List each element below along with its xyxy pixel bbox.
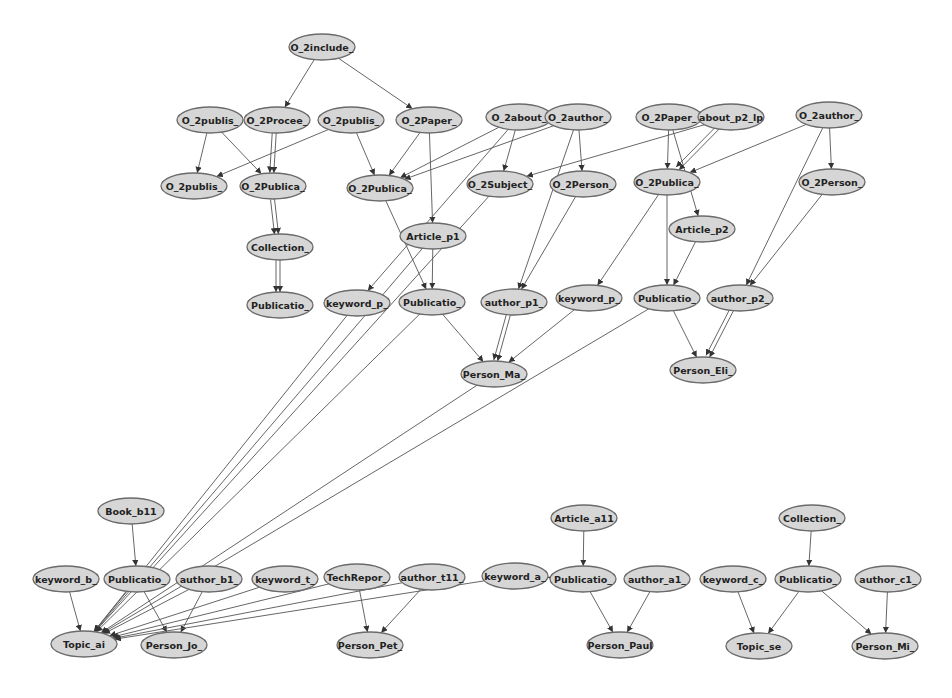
- node-label: keyword_p_: [558, 293, 620, 304]
- edge-arrow: [217, 129, 329, 176]
- edge-arrow: [627, 592, 650, 633]
- node-label: TechRepor_: [327, 572, 388, 583]
- graph-node[interactable]: keyword_c_: [700, 566, 766, 592]
- edge-arrow: [509, 310, 575, 363]
- graph-node[interactable]: keyword_p_: [556, 285, 622, 311]
- edge-arrow: [822, 591, 872, 634]
- node-label: keyword_c_: [703, 574, 764, 585]
- node-label: Collection_: [251, 242, 309, 253]
- graph-node[interactable]: O_2author_: [796, 102, 862, 128]
- graph-node[interactable]: Person_Jo_: [141, 632, 207, 658]
- graph-node[interactable]: Publicatio_: [634, 285, 700, 311]
- edge-arrow: [443, 314, 484, 361]
- node-layer: O_2include_O_2publis_O_2Procee_O_2publis…: [33, 34, 921, 659]
- graph-node[interactable]: author_a1_: [624, 566, 690, 592]
- node-label: O_2author_: [548, 112, 608, 123]
- graph-node[interactable]: O_2Person_: [550, 171, 616, 197]
- graph-node[interactable]: Publicatio_: [104, 566, 170, 592]
- node-label: O_2about_: [491, 112, 546, 123]
- edge-arrow: [339, 58, 413, 108]
- edge-arrow: [579, 130, 582, 171]
- node-label: keyword_b_: [35, 574, 97, 585]
- graph-node[interactable]: TechRepor_: [324, 564, 390, 590]
- node-label: Publicatio_: [403, 297, 461, 308]
- graph-node[interactable]: Publicatio_: [550, 566, 616, 592]
- graph-node[interactable]: Person_Eli_: [670, 357, 736, 383]
- node-label: Article_a11: [554, 513, 614, 524]
- node-label: author_c1_: [859, 574, 917, 585]
- graph-node[interactable]: author_b1_: [176, 566, 242, 592]
- edge-arrow: [809, 531, 811, 566]
- graph-node[interactable]: Article_p1: [400, 223, 466, 249]
- node-label: author_t11_: [401, 572, 464, 583]
- graph-node[interactable]: O_2Publica_: [240, 173, 306, 199]
- graph-node[interactable]: O_2Publica_: [347, 175, 413, 201]
- node-label: O_2Publica_: [241, 181, 305, 192]
- node-label: Publicatio_: [251, 300, 309, 311]
- edge-arrow: [368, 129, 509, 290]
- graph-node[interactable]: author_c1_: [855, 566, 921, 592]
- node-label: O_2Publica_: [635, 177, 699, 188]
- edge-arrow: [597, 195, 658, 286]
- node-label: author_p1_: [485, 297, 544, 308]
- edge-arrow: [429, 133, 432, 223]
- edge-arrow: [70, 592, 81, 631]
- graph-node[interactable]: O_2Subject_: [467, 171, 533, 197]
- graph-node[interactable]: keyword_b_: [33, 566, 99, 592]
- graph-node[interactable]: Article_p2: [669, 216, 735, 242]
- graph-node[interactable]: Collection_: [779, 505, 845, 531]
- node-label: O_2Procee_: [247, 115, 308, 126]
- graph-node[interactable]: keyword_p_: [324, 290, 390, 316]
- graph-node[interactable]: Person_Paul: [587, 632, 653, 658]
- edge-arrow: [746, 128, 823, 285]
- graph-node[interactable]: author_t11_: [399, 564, 465, 590]
- edge-arrow: [527, 125, 705, 177]
- graph-node[interactable]: O_2Publica_: [634, 169, 700, 195]
- graph-node[interactable]: author_p1_: [481, 289, 547, 315]
- graph-node[interactable]: Person_Ma_: [461, 361, 527, 387]
- node-label: O_2Subject_: [468, 179, 533, 190]
- graph-node[interactable]: Publicatio_: [775, 566, 841, 592]
- graph-node[interactable]: Collection_: [247, 234, 313, 260]
- graph-node[interactable]: Topic_ai: [51, 631, 117, 657]
- graph-node[interactable]: keyword_t_: [252, 566, 318, 592]
- edge-arrow: [274, 133, 276, 173]
- node-label: Topic_ai: [63, 639, 105, 650]
- graph-node[interactable]: Publicatio_: [399, 289, 465, 315]
- graph-node[interactable]: keyword_a_: [482, 563, 548, 589]
- node-label: O_2publis_: [323, 115, 380, 126]
- node-label: author_p2_: [711, 293, 770, 304]
- graph-node[interactable]: O_2publis_: [177, 107, 243, 133]
- graph-node[interactable]: O_2publis_: [318, 107, 384, 133]
- graph-node[interactable]: about_p2_lp: [698, 104, 764, 130]
- graph-node[interactable]: O_2Paper_: [636, 104, 702, 130]
- graph-node[interactable]: O_2Procee_: [244, 107, 310, 133]
- graph-node[interactable]: Article_a11: [551, 505, 617, 531]
- graph-node[interactable]: Person_Pet_: [337, 632, 403, 658]
- edge-arrow: [583, 531, 584, 566]
- edge-arrow: [830, 128, 832, 169]
- edge-arrow: [271, 199, 275, 234]
- node-label: keyword_t_: [255, 574, 315, 585]
- graph-node[interactable]: O_2publis_: [161, 173, 227, 199]
- graph-node[interactable]: Publicatio_: [247, 292, 313, 318]
- graph-node[interactable]: Person_Mi_: [852, 633, 918, 659]
- graph-svg: O_2include_O_2publis_O_2Procee_O_2publis…: [0, 0, 952, 698]
- edge-arrow: [356, 133, 374, 175]
- node-label: Person_Pet_: [338, 640, 403, 651]
- graph-node[interactable]: O_2about_: [486, 104, 552, 130]
- graph-node[interactable]: O_2Person_: [799, 169, 865, 195]
- graph-node[interactable]: O_2include_: [289, 34, 355, 60]
- graph-node[interactable]: O_2Paper_: [396, 107, 462, 133]
- edge-arrow: [94, 591, 127, 631]
- edge-arrow: [679, 129, 719, 170]
- graph-node[interactable]: Book_b11: [98, 498, 164, 524]
- node-label: Person_Ma_: [463, 369, 526, 380]
- node-label: O_2Publica_: [348, 183, 412, 194]
- graph-node[interactable]: author_p2_: [707, 285, 773, 311]
- graph-node[interactable]: O_2author_: [545, 104, 611, 130]
- graph-node[interactable]: Topic_se: [726, 633, 792, 659]
- node-label: Publicatio_: [638, 293, 696, 304]
- edge-arrow: [389, 133, 420, 176]
- node-label: Publicatio_: [554, 574, 612, 585]
